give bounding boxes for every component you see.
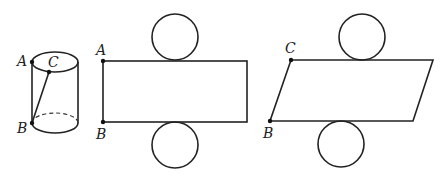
point-b (30, 121, 34, 125)
net2-bottom-circle (318, 121, 364, 167)
net1-label-a: A (94, 42, 106, 58)
net1-rectangle (103, 61, 247, 122)
net2-point-c (289, 58, 293, 62)
net1-point-a (101, 59, 105, 63)
net1-point-b (101, 120, 105, 124)
diagram: A C B A B C B (0, 0, 446, 180)
point-c (47, 70, 51, 74)
net2-parallelogram (270, 60, 433, 121)
point-a (30, 60, 34, 64)
net-rectangle: A B (94, 14, 247, 168)
label-a: A (15, 53, 27, 69)
net-parallelogram: C B (262, 14, 433, 167)
net1-top-circle (152, 14, 198, 60)
label-c: C (48, 54, 59, 70)
label-b: B (16, 120, 27, 136)
net2-label-c: C (285, 40, 296, 56)
cylinder-bottom-front-arc (32, 123, 78, 133)
net1-label-b: B (95, 126, 106, 142)
cylinder: A C B (15, 52, 78, 136)
cylinder-bottom-hidden-arc (32, 113, 78, 123)
net2-top-circle (339, 14, 385, 60)
net1-bottom-circle (152, 122, 198, 168)
net2-point-b (268, 119, 272, 123)
net2-label-b: B (262, 125, 273, 141)
segment-bc (32, 72, 49, 123)
